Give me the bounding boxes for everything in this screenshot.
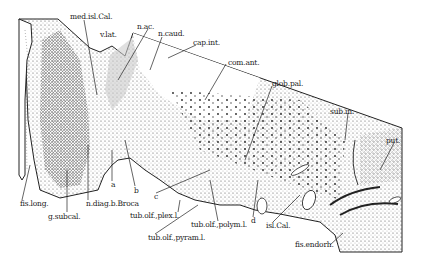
brain-section-drawing bbox=[0, 0, 443, 272]
label-g-subcal: g.subcal. bbox=[48, 212, 80, 221]
label-n-caud: n.caud. bbox=[158, 29, 185, 38]
label-n-diag-b-broca: n.diag.b.Broca bbox=[86, 199, 139, 208]
label-fis-long: fis.long. bbox=[20, 199, 49, 208]
label-tub-olf-pyram-l: tub.olf.,pyram.l. bbox=[148, 233, 205, 242]
label-v-lat: v.lat. bbox=[100, 30, 117, 39]
label-sub-in: sub.in. bbox=[330, 107, 354, 116]
label-tub-olf-polym-l: tub.olf.,polym.l. bbox=[191, 220, 247, 229]
label-cap-int: cap.int. bbox=[193, 38, 220, 47]
label-com-ant: com.ant. bbox=[228, 58, 259, 67]
label-isl-cal: isl.Cal. bbox=[266, 221, 290, 230]
label-glob-pal: glob.pal. bbox=[272, 79, 303, 88]
label-b: b bbox=[134, 186, 139, 195]
label-d: d bbox=[251, 216, 256, 225]
label-put: put. bbox=[386, 136, 400, 145]
label-a: a bbox=[111, 180, 115, 189]
label-fis-endorh: fis.endorh. bbox=[295, 240, 334, 249]
label-c: c bbox=[154, 192, 158, 201]
label-med-isl-cal: med.isl.Cal. bbox=[70, 12, 112, 21]
label-tub-olf-plex-l: tub.olf.,plex.l. bbox=[130, 211, 179, 220]
label-n-ac: n.ac. bbox=[137, 22, 154, 31]
